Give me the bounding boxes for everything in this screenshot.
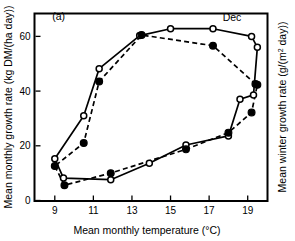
data-point-open-circle [168,26,174,32]
annotation-(a): (a) [52,10,65,22]
y-tick-label: 60 [19,31,31,42]
data-point-open-circle [254,44,260,50]
data-point-open-circle [249,33,255,39]
x-tick-label: 9 [52,205,58,216]
x-tick-label: 15 [165,205,177,216]
data-point-filled-circle [61,182,68,189]
x-axis-title: Mean monthly temperature (°C) [73,224,220,236]
x-tick-label: 11 [88,205,99,216]
x-axis-tick-labels: 91113151719 [52,205,254,216]
data-point-open-circle [108,177,114,183]
growth-rate-hysteresis-chart: 91113151719 0204060 Dec(a) Mean monthly … [0,0,295,241]
figure-panel-a: 91113151719 0204060 Dec(a) Mean monthly … [0,0,295,241]
data-point-filled-circle [107,170,114,177]
data-point-open-circle [96,66,102,72]
x-tick-label: 13 [126,205,138,216]
y-axis-tick-labels: 0204060 [19,31,31,206]
data-point-filled-circle [210,42,217,49]
data-point-filled-circle [80,140,87,147]
plot-frame [35,14,268,202]
data-point-filled-circle [96,78,103,85]
y-axis-title-right: Mean winter growth rate (g/(m2 day)) [276,22,288,193]
y-tick-label: 40 [19,86,31,97]
data-point-filled-circle [138,32,145,39]
data-point-filled-circle [51,163,58,170]
y-tick-label: 20 [19,140,31,151]
data-point-open-circle [251,92,257,98]
data-point-filled-circle [225,129,232,136]
x-tick-label: 19 [242,205,254,216]
data-point-open-circle [146,160,152,166]
y-tick-label: 0 [25,195,31,206]
x-tick-label: 17 [204,205,216,216]
data-point-open-circle [60,175,66,181]
y-axis-title-left: Mean monthly growth rate (kg DM/(ha day)… [2,5,14,208]
data-point-filled-circle [248,109,255,116]
data-point-open-circle [210,26,216,32]
data-point-filled-circle [252,81,259,88]
annotation-dec: Dec [223,11,242,23]
data-point-open-circle [52,156,58,162]
data-point-open-circle [81,113,87,119]
data-point-open-circle [237,96,243,102]
data-point-filled-circle [183,146,190,153]
